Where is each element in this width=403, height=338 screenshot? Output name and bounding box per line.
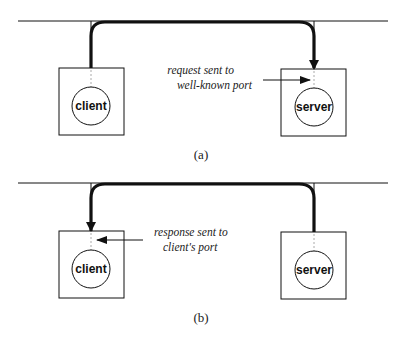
annotation-line-2: client's port bbox=[163, 241, 218, 254]
caption-a: (a) bbox=[194, 147, 208, 162]
annotation-line-1: request sent to bbox=[167, 64, 234, 77]
request-path bbox=[91, 22, 314, 68]
panel-a: client server request sent to well-known… bbox=[18, 21, 388, 162]
annotation-line-1: response sent to bbox=[154, 226, 228, 239]
port-pointer-arrowhead-icon bbox=[96, 236, 107, 244]
port-pointer-arrowhead-icon bbox=[300, 76, 311, 84]
response-path bbox=[91, 184, 314, 232]
panel-b: client server response sent to client's … bbox=[18, 183, 388, 325]
caption-b: (b) bbox=[193, 310, 208, 325]
client-server-diagram: client server request sent to well-known… bbox=[0, 0, 403, 338]
annotation-line-2: well-known port bbox=[177, 79, 253, 92]
client-label: client bbox=[75, 262, 106, 276]
server-label: server bbox=[296, 263, 332, 277]
client-label: client bbox=[75, 99, 106, 113]
server-label: server bbox=[296, 100, 332, 114]
